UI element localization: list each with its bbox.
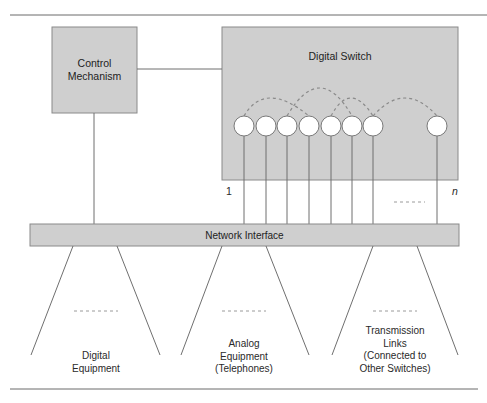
label-line: Transmission bbox=[345, 325, 445, 338]
label-line: Equipment bbox=[194, 351, 294, 364]
label-line: Links bbox=[345, 338, 445, 351]
port-first-label: 1 bbox=[222, 185, 236, 198]
label-line: (Telephones) bbox=[194, 363, 294, 376]
label-line: Digital bbox=[46, 350, 146, 363]
label-line: Analog bbox=[194, 338, 294, 351]
digital-equipment-label: Digital Equipment bbox=[46, 350, 146, 375]
analog-equipment-label: Analog Equipment (Telephones) bbox=[194, 338, 294, 376]
label-line: Other Switches) bbox=[345, 363, 445, 376]
control-label-line2: Mechanism bbox=[52, 70, 137, 83]
diagram-canvas: Control Mechanism Digital Switch 1 n Net… bbox=[0, 0, 487, 403]
label-line: Equipment bbox=[46, 363, 146, 376]
network-interface-label: Network Interface bbox=[30, 229, 459, 242]
label-line: (Connected to bbox=[345, 350, 445, 363]
digital-switch-label: Digital Switch bbox=[222, 50, 458, 63]
transmission-links-label: Transmission Links (Connected to Other S… bbox=[345, 325, 445, 375]
control-label-line1: Control bbox=[52, 57, 137, 70]
control-mechanism-label: Control Mechanism bbox=[52, 57, 137, 83]
port-last-label: n bbox=[448, 185, 462, 198]
